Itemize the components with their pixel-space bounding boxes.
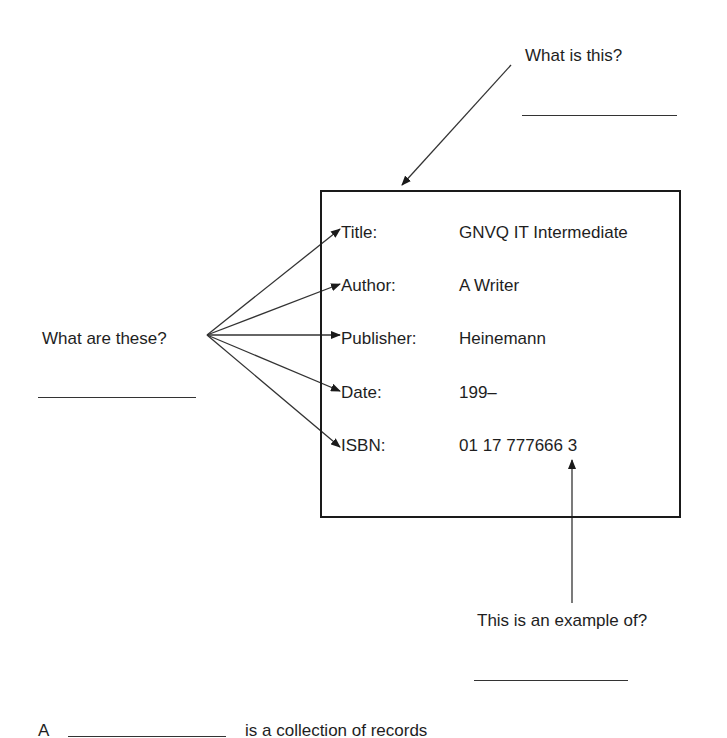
fields-answer-blank[interactable] — [38, 397, 196, 398]
box-question: What is this? — [525, 47, 622, 64]
field-label: Author: — [341, 277, 396, 294]
field-value: GNVQ IT Intermediate — [459, 224, 628, 241]
fields-question: What are these? — [42, 330, 167, 347]
value-answer-blank[interactable] — [474, 680, 628, 681]
sentence-prefix: A — [38, 722, 49, 738]
field-label: Publisher: — [341, 330, 417, 347]
field-label: ISBN: — [341, 437, 385, 454]
field-value: 01 17 777666 3 — [459, 437, 577, 454]
box-arrow — [402, 65, 511, 185]
field-value: Heinemann — [459, 330, 546, 347]
field-label: Date: — [341, 384, 382, 401]
field-value: A Writer — [459, 277, 519, 294]
value-question: This is an example of? — [477, 612, 647, 629]
sentence-blank[interactable] — [68, 736, 226, 737]
field-value: 199– — [459, 384, 497, 401]
field-label: Title: — [341, 224, 377, 241]
sentence-suffix: is a collection of records — [245, 722, 427, 738]
box-answer-blank[interactable] — [522, 115, 677, 116]
